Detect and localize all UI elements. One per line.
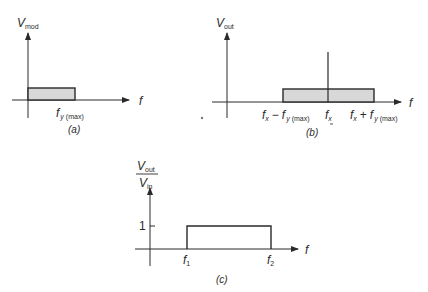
panel-b-tick-carrier: fx	[325, 108, 332, 122]
panel-a-tick-fy-max: fy(max)	[56, 106, 84, 121]
panel-b-x-label: f	[409, 96, 414, 110]
panel-b-caption: (b)	[306, 127, 318, 138]
panel-a-x-label: f	[139, 94, 144, 108]
panel-c-y-denominator: Vin	[139, 176, 153, 190]
panel-b: Vout f fx−fy(max) fx fx+fy(max) (b)	[201, 16, 414, 138]
panel-a-baseband-spectrum	[28, 88, 75, 100]
panel-a: Vmod f fy(max) (a)	[12, 16, 144, 135]
panel-c-tick-f1: f1	[183, 253, 190, 267]
panel-b-tick-upper-sideband: fx+fy(max)	[350, 108, 398, 123]
spectrum-diagram: Vmod f fy(max) (a) Vout f fx−fy(max) fx …	[0, 0, 428, 292]
panel-c-y-tick-label: 1	[139, 219, 146, 233]
panel-c-tick-f2: f2	[267, 253, 274, 267]
panel-c: Vout Vin 1 f f1 f2 (c)	[135, 159, 310, 285]
panel-c-bandpass-response	[187, 226, 271, 249]
panel-b-tick-lower-sideband: fx−fy(max)	[262, 108, 310, 123]
panel-c-x-label: f	[305, 243, 310, 257]
panel-b-stray-dot	[201, 117, 203, 119]
panel-a-caption: (a)	[68, 124, 80, 135]
panel-c-caption: (c)	[216, 274, 228, 285]
panel-a-y-label: Vmod	[17, 16, 39, 30]
panel-c-y-numerator: Vout	[137, 159, 155, 173]
panel-b-y-label: Vout	[216, 16, 234, 30]
